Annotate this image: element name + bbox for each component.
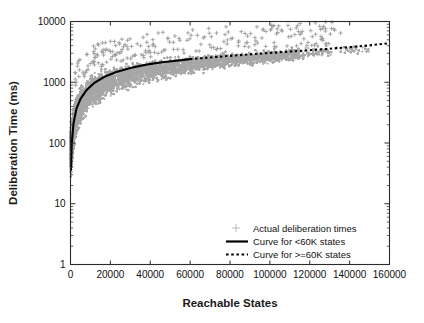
x-tick-label-0: 0 <box>68 269 74 280</box>
y-tick-label-1000: 1000 <box>43 77 66 88</box>
chart-figure: 0200004000060000800001000001200001400001… <box>0 0 424 323</box>
x-tick-label-120000: 120000 <box>293 269 327 280</box>
y-tick-label-10: 10 <box>54 198 66 209</box>
x-tick-label-160000: 160000 <box>373 269 407 280</box>
y-tick-label-10000: 10000 <box>38 16 66 27</box>
x-tick-label-60000: 60000 <box>176 269 204 280</box>
x-tick-label-40000: 40000 <box>136 269 164 280</box>
x-axis-title: Reachable States <box>182 297 277 309</box>
legend-label-dotted-curve: Curve for >=60K states <box>253 249 351 260</box>
x-tick-label-20000: 20000 <box>96 269 124 280</box>
legend-label-scatter: Actual deliberation times <box>253 223 357 234</box>
x-tick-label-100000: 100000 <box>253 269 287 280</box>
x-tick-label-80000: 80000 <box>216 269 244 280</box>
y-tick-label-100: 100 <box>49 138 66 149</box>
x-tick-label-140000: 140000 <box>333 269 367 280</box>
deliberation-time-scatter-plot: 0200004000060000800001000001200001400001… <box>0 0 424 323</box>
legend-label-solid-curve: Curve for <60K states <box>253 236 345 247</box>
y-tick-label-1: 1 <box>60 259 66 270</box>
y-axis-title: Deliberation Time (ms) <box>7 81 19 205</box>
